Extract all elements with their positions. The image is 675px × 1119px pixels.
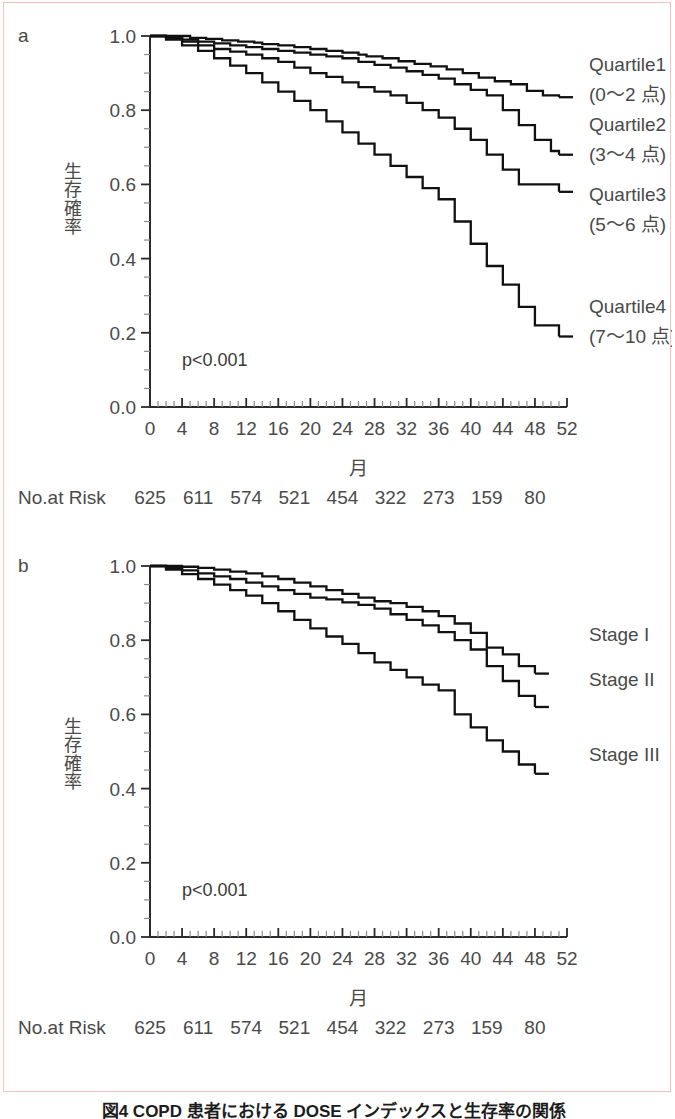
risk-table-value: 273 [423,487,455,509]
x-tick-label: 48 [524,948,545,969]
x-tick-label: 20 [300,948,321,969]
x-tick-label: 12 [236,948,257,969]
risk-table-value: 625 [134,487,166,509]
p-value-annotation: p<0.001 [182,350,248,370]
y-tick-label: 1.0 [110,556,136,577]
x-tick-label: 36 [428,418,449,439]
series-label-4: Quartile4 [589,296,667,317]
series-label-2: Quartile2 [589,114,666,135]
panel-a: a 生存確率 0.00.20.40.60.81.0048121620242832… [4,3,672,508]
x-tick-label: 8 [209,418,220,439]
x-tick-label: 0 [145,948,156,969]
risk-table-value: 521 [278,1017,310,1039]
figure-caption: 図4 COPD 患者における DOSE インデックスと生存率の関係 [0,1097,668,1119]
x-tick-label: 44 [492,948,514,969]
risk-table-value: 521 [278,487,310,509]
risk-table-value: 454 [327,1017,359,1039]
x-tick-label: 20 [300,418,321,439]
y-tick-label: 0.0 [110,927,136,948]
y-tick-label: 0.0 [110,397,136,418]
risk-table-value: 322 [375,1017,407,1039]
x-tick-label: 40 [460,418,481,439]
series-label-3: Quartile3 [589,184,666,205]
x-tick-label: 52 [556,418,577,439]
x-tick-label: 4 [177,948,188,969]
y-tick-label: 0.4 [110,249,137,270]
risk-table-value: 159 [471,1017,503,1039]
y-tick-label: 0.2 [110,853,136,874]
x-tick-label: 44 [492,418,514,439]
series-sublabel-4: (7〜10 点) [589,326,672,347]
x-tick-label: 28 [364,948,385,969]
panel-a-risk-table: No.at Risk62561157452145432227315980 [4,487,672,515]
x-tick-label: 0 [145,418,156,439]
p-value-annotation: p<0.001 [182,880,248,900]
x-tick-label: 48 [524,418,545,439]
risk-table-value: 159 [471,487,503,509]
y-tick-label: 0.8 [110,100,136,121]
x-tick-label: 40 [460,948,481,969]
figure-frame: a 生存確率 0.00.20.40.60.81.0048121620242832… [3,2,671,1092]
panel-b: b 生存確率 0.00.20.40.60.81.0048121620242832… [4,533,672,1093]
series-sublabel-2: (3〜4 点) [589,144,666,165]
risk-table-title: No.at Risk [18,487,106,509]
panel-b-risk-table: No.at Risk62561157452145432227315980 [4,1017,672,1045]
risk-table-value: 574 [230,1017,262,1039]
x-tick-label: 32 [396,948,417,969]
x-tick-label: 36 [428,948,449,969]
risk-table-title: No.at Risk [18,1017,106,1039]
risk-table-value: 322 [375,487,407,509]
x-tick-label: 32 [396,418,417,439]
y-tick-label: 0.2 [110,323,136,344]
y-tick-label: 0.6 [110,174,136,195]
risk-table-value: 80 [524,1017,545,1039]
x-tick-label: 8 [209,948,220,969]
x-tick-label: 24 [332,948,354,969]
risk-table-value: 611 [183,1017,213,1039]
risk-table-value: 273 [423,1017,455,1039]
risk-table-value: 611 [183,487,213,509]
series-label-1: Stage I [589,624,649,645]
series-label-1: Quartile1 [589,54,666,75]
y-tick-label: 0.6 [110,704,136,725]
y-tick-label: 1.0 [110,26,136,47]
curve-stage-iii [150,566,535,774]
series-sublabel-3: (5〜6 点) [589,214,666,235]
series-sublabel-1: (0〜2 点) [589,84,666,105]
x-tick-label: 16 [268,948,289,969]
x-tick-label: 24 [332,418,354,439]
panel-b-x-axis-label: 月 [349,983,368,1010]
x-tick-label: 52 [556,948,577,969]
risk-table-value: 625 [134,1017,166,1039]
y-tick-label: 0.8 [110,630,136,651]
panel-a-plot: 0.00.20.40.60.81.00481216202428323640444… [4,3,672,443]
curve-stage-i [150,566,535,674]
x-tick-label: 4 [177,418,188,439]
x-tick-label: 16 [268,418,289,439]
risk-table-value: 574 [230,487,262,509]
series-label-2: Stage II [589,669,655,690]
series-label-3: Stage III [589,744,660,765]
risk-table-value: 454 [327,487,359,509]
panel-a-x-axis-label: 月 [349,453,368,480]
x-tick-label: 28 [364,418,385,439]
x-tick-label: 12 [236,418,257,439]
panel-b-plot: 0.00.20.40.60.81.00481216202428323640444… [4,533,672,973]
risk-table-value: 80 [524,487,545,509]
y-tick-label: 0.4 [110,779,137,800]
